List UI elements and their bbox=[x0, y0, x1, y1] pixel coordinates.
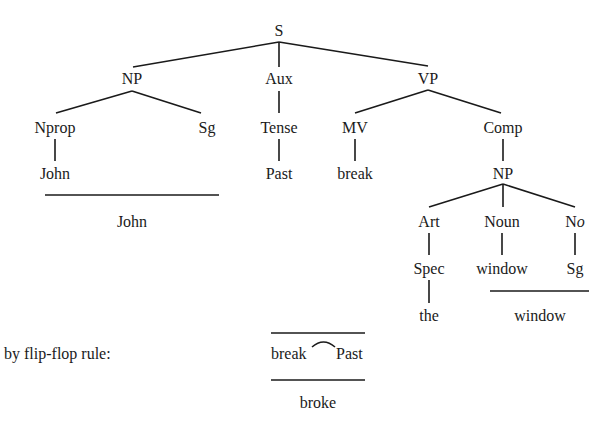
flip-flop-rule-section: by flip-flop rule: break Past broke bbox=[4, 333, 365, 411]
node-window: window bbox=[476, 260, 528, 277]
flip-flop-input-past: Past bbox=[336, 345, 363, 362]
node-art: Art bbox=[418, 213, 440, 230]
flip-flop-input-break: break bbox=[271, 345, 307, 362]
node-aux: Aux bbox=[265, 70, 293, 87]
edge-np1-sg1 bbox=[132, 91, 201, 113]
john-surface-form: John bbox=[117, 213, 147, 230]
syntax-tree-diagram: SNPAuxVPNpropSgTenseMVCompJohnPastbreakN… bbox=[0, 0, 609, 422]
flip-flop-swap-arc bbox=[312, 342, 335, 347]
node-tense: Tense bbox=[260, 119, 297, 136]
edge-np2-art bbox=[429, 184, 503, 207]
node-break: break bbox=[337, 165, 373, 182]
node-noun: Noun bbox=[484, 213, 520, 230]
node-john: John bbox=[40, 165, 70, 182]
node-vp: VP bbox=[418, 70, 439, 87]
edge-s-np1 bbox=[133, 42, 279, 67]
node-np2: NP bbox=[493, 165, 514, 182]
node-mv: MV bbox=[342, 119, 368, 136]
edge-np2-no bbox=[503, 184, 575, 207]
edge-s-vp bbox=[279, 42, 428, 66]
node-spec: Spec bbox=[413, 260, 444, 278]
node-sg1: Sg bbox=[199, 119, 216, 137]
window-surface-form: window bbox=[514, 307, 566, 324]
flip-flop-rule-label: by flip-flop rule: bbox=[4, 345, 111, 363]
node-no: No bbox=[565, 213, 585, 230]
node-s: S bbox=[275, 22, 284, 39]
node-sg2: Sg bbox=[567, 260, 584, 278]
node-np1: NP bbox=[122, 70, 143, 87]
edge-np1-nprop bbox=[56, 91, 132, 113]
node-the: the bbox=[419, 307, 439, 324]
tree-nodes: SNPAuxVPNpropSgTenseMVCompJohnPastbreakN… bbox=[35, 22, 585, 324]
edge-vp-mv bbox=[355, 90, 428, 113]
edge-vp-comp bbox=[428, 90, 501, 113]
node-past: Past bbox=[266, 165, 293, 182]
node-nprop: Nprop bbox=[35, 119, 76, 137]
node-comp: Comp bbox=[483, 119, 522, 137]
flip-flop-output-broke: broke bbox=[300, 394, 336, 411]
